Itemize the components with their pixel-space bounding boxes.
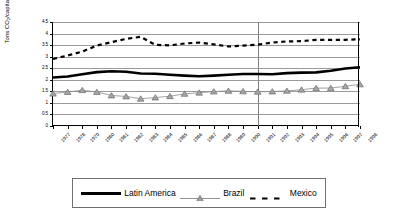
x-axis-tick — [331, 126, 332, 129]
x-axis-tick — [53, 126, 54, 129]
x-axis-tick — [170, 126, 171, 129]
legend-label-brazil: Brazil — [223, 189, 244, 198]
legend-swatch-mexico-icon — [249, 189, 287, 198]
x-axis-tick-label: 1992 — [279, 132, 290, 143]
legend-label-latin-america: Latin America — [124, 189, 176, 198]
x-axis-tick-label: 1978 — [75, 132, 86, 143]
legend-item-brazil: Brazil — [180, 189, 244, 198]
x-axis-tick-label: 1986 — [192, 132, 203, 143]
series-line — [53, 37, 360, 59]
legend-item-mexico: Mexico — [249, 189, 317, 198]
x-axis-tick — [126, 126, 127, 129]
legend-swatch-latin-america-icon — [81, 192, 121, 195]
x-axis-tick — [302, 126, 303, 129]
x-axis-tick-label: 1979 — [89, 132, 100, 143]
x-axis-tick-label: 1995 — [323, 132, 334, 143]
x-axis-tick-label: 1996 — [338, 132, 349, 143]
x-axis-tick-label: 1988 — [221, 132, 232, 143]
x-axis-tick — [141, 126, 142, 129]
x-axis-tick-label: 1984 — [162, 132, 173, 143]
series-latin-america — [53, 67, 360, 77]
plot-area: 00.511.522.533.544.5 1977197819791980198… — [52, 22, 359, 126]
x-axis-tick — [185, 126, 186, 129]
y-axis-tick-label: 1 — [46, 101, 48, 106]
y-axis-title-main: Tons CO — [4, 20, 10, 43]
x-axis-tick-label: 1993 — [294, 132, 305, 143]
y-axis-tick-label: 4 — [46, 32, 48, 37]
y-axis-tick-label: 1.5 — [42, 89, 48, 94]
x-axis-tick — [199, 126, 200, 129]
y-axis-tick-label: 2.5 — [42, 66, 48, 71]
plot-right-border — [358, 22, 359, 127]
x-axis-tick-label: 1982 — [133, 132, 144, 143]
x-axis-tick-label: 1997 — [353, 132, 364, 143]
x-axis-tick — [68, 126, 69, 129]
x-axis-tick — [111, 126, 112, 129]
y-axis-tick-label: 3.5 — [42, 43, 48, 48]
y-axis-tick-label: 2 — [46, 78, 48, 83]
y-axis-title: Tons CO2/capita a — [4, 0, 11, 68]
x-axis-tick — [345, 126, 346, 129]
x-axis-tick — [243, 126, 244, 129]
co2-per-capita-line-chart: Tons CO2/capita a 00.511.522.533.544.5 1… — [0, 0, 398, 216]
x-axis-tick-label: 1990 — [250, 132, 261, 143]
x-axis-tick — [97, 126, 98, 129]
series-line — [53, 84, 360, 98]
legend-label-mexico: Mexico — [290, 189, 317, 198]
x-axis-tick-label: 1980 — [104, 132, 115, 143]
y-axis-title-tail: /capita — [4, 0, 10, 18]
y-axis-tick-label: 0.5 — [42, 112, 48, 117]
data-series-layer — [53, 22, 360, 126]
legend-item-latin-america: Latin America — [81, 189, 176, 198]
x-axis-tick-label: 1977 — [60, 132, 71, 143]
x-axis-tick-label: 1991 — [265, 132, 276, 143]
x-axis-tick-label: 1998 — [367, 132, 378, 143]
x-axis-tick-label: 1981 — [119, 132, 130, 143]
x-axis-tick — [155, 126, 156, 129]
legend-swatch-brazil-icon — [180, 189, 220, 198]
y-axis-tick-label: 4.5 — [42, 20, 48, 25]
series-brazil — [50, 82, 364, 102]
x-axis-tick — [360, 126, 361, 129]
x-axis-tick — [316, 126, 317, 129]
x-axis-tick — [287, 126, 288, 129]
series-marker — [79, 87, 86, 92]
x-axis-tick-label: 1987 — [206, 132, 217, 143]
x-axis-tick — [258, 126, 259, 129]
x-axis-tick — [272, 126, 273, 129]
x-axis-tick-label: 1994 — [309, 132, 320, 143]
x-axis-tick-label: 1983 — [148, 132, 159, 143]
x-axis-tick-label: 1985 — [177, 132, 188, 143]
y-axis-tick-label: 3 — [46, 55, 48, 60]
y-axis-tick-label: 0 — [46, 124, 48, 129]
series-line — [53, 67, 360, 77]
x-axis-tick — [228, 126, 229, 129]
x-axis-tick — [82, 126, 83, 129]
chart-legend: Latin America Brazil Mexico — [72, 178, 326, 208]
x-axis-tick — [214, 126, 215, 129]
x-axis-tick-label: 1989 — [236, 132, 247, 143]
series-mexico — [53, 37, 360, 59]
